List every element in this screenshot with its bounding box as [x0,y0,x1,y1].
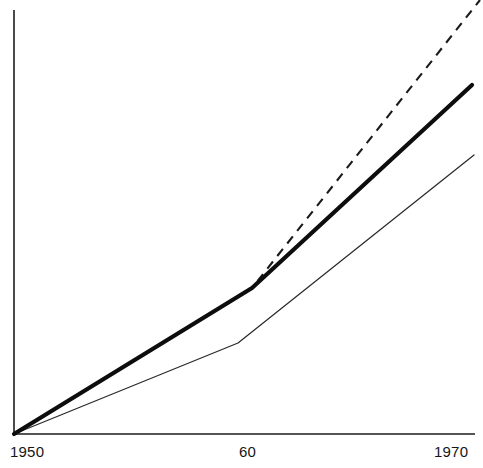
series-line-dashed [14,0,480,434]
x-axis-tick-label-60: 60 [239,444,256,459]
line-chart: 1950 60 1970 [0,0,483,468]
chart-plot-area [0,0,483,468]
x-axis-tick-label-1970: 1970 [434,444,468,459]
x-axis-tick-label-1950: 1950 [10,444,44,459]
series-line-thick-solid [14,85,472,434]
